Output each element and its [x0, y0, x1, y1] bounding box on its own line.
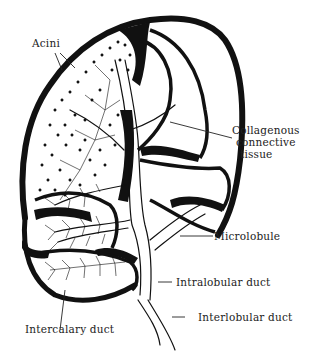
label-microlobule: Microlobule [214, 231, 280, 242]
acini-cluster [39, 41, 131, 200]
label-collagenous-line3: tissue [240, 149, 273, 160]
label-intercalary-duct: Intercalary duct [25, 324, 114, 335]
gland-lobule-diagram: Acini Collagenous connective tissue Micr… [0, 0, 333, 353]
label-intralobular-duct: Intralobular duct [176, 277, 271, 288]
leader-lines [55, 53, 232, 330]
label-collagenous-line2: connective [236, 137, 296, 148]
diagram-drawing [0, 0, 333, 353]
connective-tissue-septa [22, 22, 225, 264]
label-interlobular-duct: Interlobular duct [198, 312, 293, 323]
label-acini: Acini [32, 38, 60, 49]
label-collagenous-line1: Collagenous [232, 125, 300, 136]
